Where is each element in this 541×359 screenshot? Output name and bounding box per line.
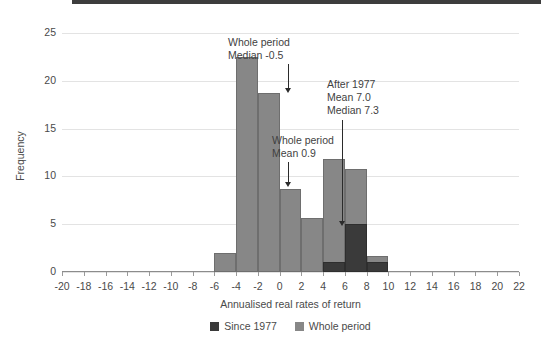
x-tick-mark [454, 272, 455, 276]
x-tick-mark [497, 272, 498, 276]
x-tick-mark [214, 272, 215, 276]
bar-whole-period-2 [258, 93, 280, 272]
grid-line [62, 33, 519, 34]
grid-line [62, 176, 519, 177]
legend-item: Whole period [295, 320, 371, 332]
legend-label: Whole period [309, 320, 371, 332]
bar-since-1977-5 [323, 262, 345, 272]
annotation-line: Median -0.5 [228, 49, 290, 62]
x-tick-mark [106, 272, 107, 276]
x-axis-label: Annualised real rates of return [62, 298, 519, 310]
annotation-arrowhead [339, 221, 345, 226]
annotation-line: After 1977 [327, 78, 379, 91]
annotation-line: Mean 0.9 [272, 147, 334, 160]
x-tick-mark [519, 272, 520, 276]
grid-line [62, 81, 519, 82]
x-tick-mark [323, 272, 324, 276]
x-tick-mark [410, 272, 411, 276]
legend: Since 1977Whole period [62, 320, 519, 332]
x-tick-mark [236, 272, 237, 276]
x-tick-mark [432, 272, 433, 276]
annotation-whole-period-median: Whole period Median -0.5 [228, 36, 290, 62]
y-tick-label: 25 [16, 26, 56, 38]
x-tick-mark [475, 272, 476, 276]
bar-since-1977-7 [367, 262, 389, 272]
bar-since-1977-6 [345, 224, 367, 272]
bar-whole-period-0 [214, 253, 236, 272]
bar-whole-period-4 [301, 218, 323, 272]
annotation-whole-period-mean: Whole period Mean 0.9 [272, 134, 334, 160]
legend-swatch [210, 322, 219, 331]
x-tick-mark [301, 272, 302, 276]
legend-label: Since 1977 [224, 320, 277, 332]
x-tick-mark [280, 272, 281, 276]
y-tick-label: 0 [16, 265, 56, 277]
x-tick-mark [149, 272, 150, 276]
annotation-line: Whole period [272, 134, 334, 147]
bar-whole-period-3 [280, 189, 302, 272]
annotation-leader-line [342, 120, 343, 223]
legend-swatch [295, 322, 304, 331]
x-tick-mark [84, 272, 85, 276]
y-tick-label: 5 [16, 217, 56, 229]
annotation-arrowhead [285, 182, 291, 187]
annotation-after-1977: After 1977 Mean 7.0 Median 7.3 [327, 78, 379, 117]
legend-item: Since 1977 [210, 320, 277, 332]
annotation-leader-line [288, 64, 289, 90]
x-tick-mark [62, 272, 63, 276]
annotation-leader-line [288, 162, 289, 184]
x-tick-mark [127, 272, 128, 276]
x-tick-mark [367, 272, 368, 276]
annotation-line: Whole period [228, 36, 290, 49]
x-tick-mark [345, 272, 346, 276]
grid-line [62, 129, 519, 130]
x-tick-mark [388, 272, 389, 276]
bar-whole-period-1 [236, 57, 258, 272]
x-tick-mark [193, 272, 194, 276]
annotation-line: Mean 7.0 [327, 91, 379, 104]
x-tick-label: 22 [499, 280, 539, 292]
x-tick-mark [258, 272, 259, 276]
annotation-line: Median 7.3 [327, 104, 379, 117]
y-tick-label: 20 [16, 74, 56, 86]
histogram-chart: 0510152025 Frequency -20-18-16-14-12-10-… [0, 0, 541, 359]
y-axis-label: Frequency [14, 106, 26, 206]
annotation-arrowhead [285, 88, 291, 93]
x-tick-mark [171, 272, 172, 276]
